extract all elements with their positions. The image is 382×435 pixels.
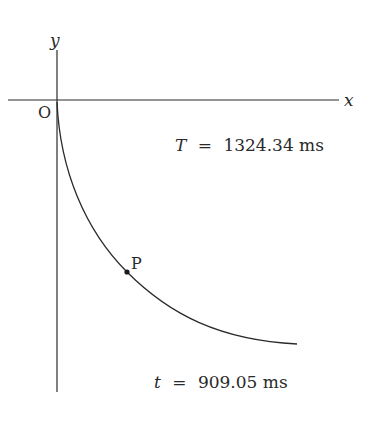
point-p-marker [124,269,129,274]
total-time-equals: = [198,135,212,155]
current-time-symbol: t [154,372,161,392]
brachistochrone-diagram: x y O P T = 1324.34 ms t = 909.05 ms [0,0,382,435]
current-time-annotation: t = 909.05 ms [154,372,288,392]
origin-label: O [38,103,51,122]
point-p-label: P [131,254,142,273]
y-axis-label: y [49,30,60,50]
total-time-annotation: T = 1324.34 ms [175,135,324,155]
current-time-value: 909.05 ms [198,372,288,392]
total-time-symbol: T [175,135,188,155]
x-axis-label: x [344,90,354,110]
current-time-equals: = [172,372,186,392]
total-time-value: 1324.34 ms [223,135,324,155]
